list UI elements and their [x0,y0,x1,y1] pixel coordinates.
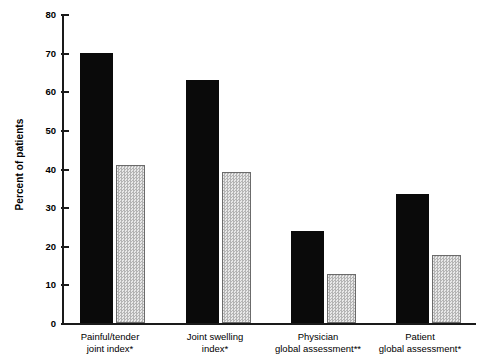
y-axis-tick-label: 20 [45,242,56,252]
y-axis-title: Percent of patients [14,105,25,225]
y-axis-tick [61,169,69,171]
y-axis-tick [61,323,69,325]
x-axis-line [62,323,476,325]
y-axis-tick-label: 70 [45,49,56,59]
y-axis-tick [61,14,69,16]
x-axis-category-label: Patient global assessment* [350,331,485,354]
y-axis-tick [61,284,69,286]
y-axis-tick-label: 30 [45,203,56,213]
y-axis-tick-label: 60 [45,88,56,98]
y-axis-tick-label: 10 [45,281,56,291]
bar-hatched [327,274,356,323]
y-axis-tick-label: 0 [51,319,56,329]
bar-solid [291,231,324,323]
y-axis-tick-label: 50 [45,126,56,136]
bar-solid [80,53,113,323]
y-axis-tick [61,130,69,132]
y-axis-tick-label: 80 [45,10,56,20]
bar-hatched [432,255,461,323]
bar-solid [186,80,219,323]
bar-chart: Percent of patients 01020304050607080 Pa… [0,0,485,362]
y-axis-tick [61,91,69,93]
bar-hatched [116,165,145,323]
bar-hatched [222,172,251,323]
y-axis-tick-label: 40 [45,165,56,175]
y-axis-tick [61,246,69,248]
bar-solid [396,194,429,323]
plot-area: 01020304050607080 [62,14,476,325]
y-axis-tick [61,53,69,55]
y-axis-tick [61,207,69,209]
